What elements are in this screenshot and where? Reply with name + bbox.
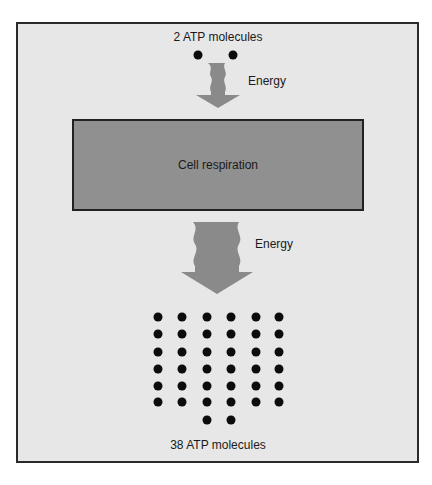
atp-molecule-icon [178, 313, 187, 322]
atp-molecule-icon [154, 348, 163, 357]
atp-molecule-icon [275, 365, 284, 374]
atp-molecule-icon [154, 313, 163, 322]
atp-molecule-icon [178, 382, 187, 391]
atp-molecule-icon [275, 348, 284, 357]
atp-molecule-icon [275, 382, 284, 391]
atp-molecule-icon [227, 365, 236, 374]
atp-molecule-icon [203, 382, 212, 391]
atp-molecule-icon [275, 398, 284, 407]
atp-molecule-icon [154, 330, 163, 339]
atp-molecule-icon [227, 382, 236, 391]
atp-molecule-icon [178, 398, 187, 407]
output-label: 38 ATP molecules [170, 438, 266, 452]
atp-molecule-icon [252, 382, 261, 391]
atp-molecule-icon [203, 348, 212, 357]
atp-molecule-icon [275, 330, 284, 339]
energy-out-label: Energy [255, 237, 293, 251]
atp-molecule-icon [227, 313, 236, 322]
atp-molecule-icon [252, 398, 261, 407]
atp-molecule-icon [178, 348, 187, 357]
atp-molecule-icon [227, 416, 236, 425]
atp-molecule-icon [178, 365, 187, 374]
atp-molecule-icon [154, 365, 163, 374]
atp-molecule-icon [227, 330, 236, 339]
atp-molecule-icon [154, 398, 163, 407]
atp-molecule-icon [203, 313, 212, 322]
atp-molecule-icon [178, 330, 187, 339]
atp-molecule-icon [203, 398, 212, 407]
atp-molecule-icon [252, 313, 261, 322]
atp-molecule-icon [203, 416, 212, 425]
energy-out-arrow-icon [0, 0, 432, 485]
atp-molecule-icon [203, 330, 212, 339]
atp-molecule-icon [227, 398, 236, 407]
atp-molecule-icon [252, 330, 261, 339]
atp-molecule-icon [203, 365, 212, 374]
atp-molecule-icon [252, 348, 261, 357]
atp-molecule-icon [252, 365, 261, 374]
atp-molecule-icon [227, 348, 236, 357]
atp-molecule-icon [154, 382, 163, 391]
atp-molecule-icon [275, 313, 284, 322]
